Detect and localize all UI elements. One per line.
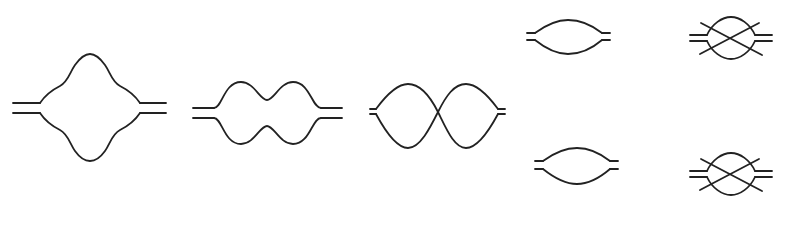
upper-lens-curve: [543, 148, 610, 161]
lower-lens-curve: [535, 40, 602, 54]
upper-loop-curve: [40, 54, 140, 103]
lower-arc: [707, 177, 755, 195]
lower-loop-curve: [40, 113, 140, 161]
upper-arc: [707, 17, 755, 35]
figure-lens-loop-bottom: [535, 148, 618, 184]
figure-double-bump-loop: [193, 82, 342, 144]
upper-lens-curve: [535, 20, 602, 33]
lower-lens-curve: [543, 169, 610, 184]
figure-four-lobed-loop: [13, 54, 166, 161]
diagonal-line-down: [701, 159, 762, 191]
upper-arc: [707, 153, 755, 171]
lower-arc: [707, 41, 755, 59]
left-lobe-curve: [376, 84, 438, 148]
lower-bumps-curve: [214, 118, 321, 144]
diagram-canvas: [0, 0, 790, 229]
right-lobe-curve: [438, 84, 498, 148]
figure-lens-loop-top: [527, 20, 610, 54]
figure-crossed-circle-top: [690, 17, 772, 59]
diagonal-line-down: [701, 23, 762, 55]
figure-crossed-circle-bottom: [690, 153, 772, 195]
figure-eight-loop: [370, 84, 505, 148]
upper-bumps-curve: [214, 82, 321, 108]
